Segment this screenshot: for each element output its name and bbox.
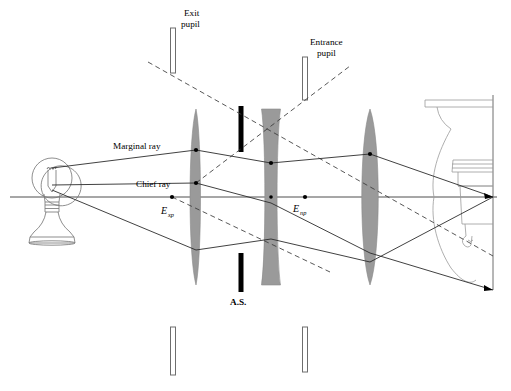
- optical-diagram-figure: Exit pupil Entrance pupil Marginal ray C…: [0, 0, 511, 391]
- lens-1: [190, 109, 201, 285]
- exit-pupil-point-label-base: E: [160, 205, 167, 216]
- chief-ray-label: Chief ray: [136, 179, 171, 189]
- aperture-stop-label: A.S.: [230, 297, 246, 307]
- image-plane-and-image: [425, 95, 493, 290]
- exit-pupil-label-line1: Exit: [184, 8, 200, 18]
- diagram-canvas: Exit pupil Entrance pupil Marginal ray C…: [0, 0, 511, 391]
- marginal-ray-label: Marginal ray: [113, 141, 161, 151]
- ray-dot-lens2-marginal-upper: [269, 161, 273, 165]
- exit-pupil-upper-bar: [171, 28, 176, 73]
- entrance-pupil-point-label: E np: [292, 203, 306, 216]
- light-bulb-object: [29, 158, 81, 245]
- exit-pupil-axis-point: [170, 195, 174, 199]
- entrance-pupil-axis-point: [303, 195, 307, 199]
- exit-pupil-lower-bar: [171, 327, 176, 375]
- ray-dot-lens1-chief: [194, 181, 198, 185]
- exit-pupil-point-label: E xp: [160, 205, 174, 218]
- chief-ray-arrowhead: [484, 285, 493, 291]
- entrance-pupil-label-line1: Entrance: [310, 37, 343, 47]
- entrance-pupil-point-label-base: E: [292, 203, 299, 214]
- entrance-pupil-label-line2: pupil: [317, 48, 336, 58]
- ray-dot-lens3-marginal-upper: [368, 152, 372, 156]
- ray-dot-lens1-marginal-upper: [194, 148, 198, 152]
- entrance-pupil-upper-bar: [303, 57, 308, 100]
- aperture-stop-lower-bar: [239, 253, 244, 292]
- entrance-pupil-point-label-subscript: np: [300, 209, 306, 216]
- exit-pupil-label-line2: pupil: [181, 19, 200, 29]
- exit-pupil-point-label-subscript: xp: [167, 211, 174, 218]
- entrance-pupil-lower-bar: [303, 327, 308, 372]
- ray-dot-lens2-axis: [269, 195, 273, 199]
